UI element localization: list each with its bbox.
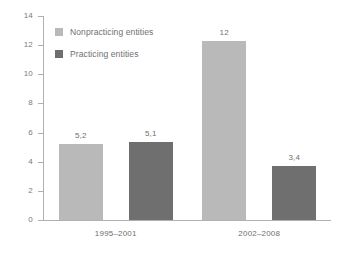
- y-axis-tick: [38, 74, 43, 75]
- bar: [129, 142, 173, 220]
- y-axis-tick-label: 14: [0, 11, 33, 20]
- y-axis-line: [43, 16, 44, 221]
- bar-value-label: 12: [202, 28, 246, 37]
- legend-swatch-icon-nonpracticing: [55, 28, 63, 36]
- y-axis-tick-label: 6: [0, 128, 33, 137]
- bar: [272, 166, 316, 220]
- legend-label-practicing: Practicing entities: [70, 49, 139, 59]
- x-axis-category-label: 1995–2001: [44, 229, 188, 238]
- bar-chart: 02468101214 5,25,1123,4 1995–20012002–20…: [0, 0, 341, 256]
- y-axis-tick: [38, 103, 43, 104]
- y-axis-tick-label: 10: [0, 69, 33, 78]
- y-axis-tick-label: 12: [0, 40, 33, 49]
- bar: [202, 41, 246, 220]
- bar-value-label: 5,1: [129, 129, 173, 138]
- legend-item-practicing-entities: Practicing entities: [55, 46, 153, 61]
- legend-label-nonpracticing: Nonpracticing entities: [70, 27, 153, 37]
- y-axis-tick: [38, 220, 43, 221]
- bar-value-label: 5,2: [59, 131, 103, 140]
- y-axis-tick-label: 8: [0, 98, 33, 107]
- y-axis-tick: [38, 162, 43, 163]
- y-axis-tick-label: 4: [0, 157, 33, 166]
- legend: Nonpracticing entities Practicing entiti…: [55, 24, 153, 68]
- x-axis-category-label: 2002–2008: [188, 229, 332, 238]
- y-axis-tick: [38, 191, 43, 192]
- y-axis-tick: [38, 45, 43, 46]
- legend-item-nonpracticing-entities: Nonpracticing entities: [55, 24, 153, 39]
- y-axis-tick-label: 0: [0, 215, 33, 224]
- x-axis-line: [43, 220, 331, 221]
- bar-value-label: 3,4: [272, 153, 316, 162]
- y-axis-tick: [38, 133, 43, 134]
- y-axis-tick: [38, 16, 43, 17]
- legend-swatch-icon-practicing: [55, 50, 63, 58]
- bar: [59, 144, 103, 220]
- y-axis-tick-label: 2: [0, 186, 33, 195]
